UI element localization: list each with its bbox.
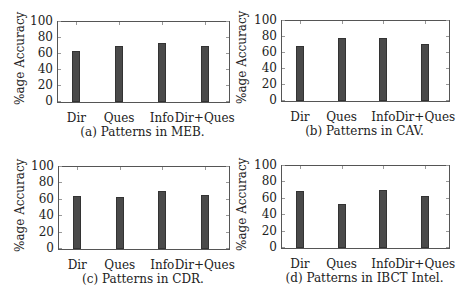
y-tick-label: 100	[24, 160, 54, 172]
y-tick-mark	[59, 199, 62, 200]
bar	[73, 196, 81, 249]
y-tick-mark-right	[226, 21, 229, 22]
y-tick-mark	[59, 232, 62, 233]
y-tick-mark	[59, 182, 62, 183]
y-tick-mark	[282, 84, 285, 85]
y-tick-label: 100	[247, 159, 277, 171]
y-tick-mark	[58, 101, 61, 102]
y-tick-mark-right	[446, 181, 449, 182]
x-tick-mark	[425, 166, 426, 169]
bar	[72, 51, 80, 102]
x-tick-mark	[77, 167, 78, 170]
y-tick-mark	[282, 100, 285, 101]
y-tick-mark-right	[226, 182, 229, 183]
y-tick-mark-right	[226, 166, 229, 167]
y-tick-mark	[59, 215, 62, 216]
y-tick-mark-right	[226, 248, 229, 249]
y-tick-mark-right	[226, 69, 229, 70]
bar	[115, 46, 123, 102]
x-tick-label: Dir+Ques	[175, 112, 235, 124]
y-tick-label: 60	[247, 192, 277, 204]
figure-caption: (b) Patterns in CAV.	[249, 124, 465, 138]
y-tick-mark	[58, 21, 61, 22]
y-tick-mark	[58, 85, 61, 86]
y-tick-mark-right	[446, 165, 449, 166]
x-tick-label: Dir+Ques	[175, 259, 235, 271]
bar	[338, 204, 346, 248]
y-tick-label: 0	[247, 94, 277, 106]
y-tick-mark	[282, 231, 285, 232]
y-tick-mark	[282, 198, 285, 199]
y-tick-mark	[59, 166, 62, 167]
y-tick-mark-right	[226, 215, 229, 216]
y-tick-label: 80	[247, 175, 277, 187]
x-tick-mark	[162, 22, 163, 25]
y-tick-mark-right	[446, 198, 449, 199]
x-tick-mark	[205, 167, 206, 170]
y-tick-mark-right	[226, 85, 229, 86]
x-tick-mark	[205, 22, 206, 25]
bar	[379, 38, 387, 101]
y-tick-mark-right	[446, 247, 449, 248]
figure-caption: (d) Patterns in IBCT Intel.	[249, 271, 465, 285]
figure-caption: (a) Patterns in MEB.	[27, 125, 259, 139]
y-tick-mark-right	[446, 68, 449, 69]
y-tick-label: 0	[24, 242, 54, 254]
y-tick-mark	[58, 53, 61, 54]
y-tick-label: 40	[247, 62, 277, 74]
y-tick-label: 40	[23, 63, 53, 75]
y-tick-mark	[282, 20, 285, 21]
y-tick-mark	[282, 214, 285, 215]
y-tick-label: 100	[23, 15, 53, 27]
x-tick-label: Dir+Ques	[395, 111, 455, 123]
y-tick-label: 0	[23, 95, 53, 107]
bar	[201, 46, 209, 102]
bar	[158, 191, 166, 249]
y-tick-mark-right	[446, 231, 449, 232]
bar	[379, 190, 387, 248]
x-tick-mark	[300, 166, 301, 169]
bar	[421, 196, 429, 248]
x-tick-mark	[383, 166, 384, 169]
x-tick-mark	[162, 167, 163, 170]
bar	[201, 195, 209, 249]
y-tick-mark-right	[226, 199, 229, 200]
y-tick-label: 20	[24, 226, 54, 238]
y-tick-label: 60	[247, 46, 277, 58]
y-tick-label: 80	[247, 30, 277, 42]
x-tick-mark	[383, 21, 384, 24]
y-tick-label: 0	[247, 241, 277, 253]
y-tick-mark	[282, 165, 285, 166]
y-tick-mark	[282, 36, 285, 37]
x-tick-mark	[120, 167, 121, 170]
y-tick-mark	[58, 69, 61, 70]
x-tick-mark	[342, 21, 343, 24]
x-tick-mark	[425, 21, 426, 24]
y-tick-mark	[59, 248, 62, 249]
y-tick-label: 60	[23, 47, 53, 59]
y-tick-label: 20	[23, 79, 53, 91]
y-tick-label: 20	[247, 78, 277, 90]
y-tick-mark	[58, 37, 61, 38]
y-tick-label: 80	[23, 31, 53, 43]
y-tick-mark-right	[446, 52, 449, 53]
x-tick-label: Dir+Ques	[395, 258, 455, 270]
y-tick-mark-right	[446, 84, 449, 85]
y-tick-mark-right	[446, 100, 449, 101]
y-tick-label: 60	[24, 193, 54, 205]
y-tick-label: 40	[24, 209, 54, 221]
y-axis-label: %age Accuracy	[13, 12, 27, 105]
y-tick-mark	[282, 247, 285, 248]
bar	[116, 197, 124, 249]
bar	[338, 38, 346, 101]
bar	[158, 43, 166, 102]
y-tick-label: 100	[247, 14, 277, 26]
y-tick-label: 40	[247, 208, 277, 220]
y-tick-mark-right	[226, 232, 229, 233]
y-tick-mark-right	[446, 214, 449, 215]
bar	[296, 191, 304, 248]
y-tick-label: 80	[24, 176, 54, 188]
bar	[421, 44, 429, 101]
x-tick-mark	[300, 21, 301, 24]
y-axis-label: %age Accuracy	[235, 11, 249, 104]
